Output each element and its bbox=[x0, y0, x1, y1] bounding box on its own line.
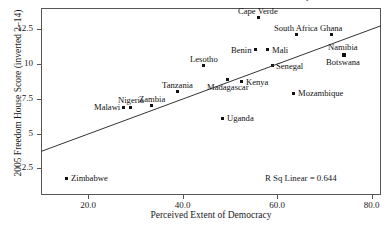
x-tick-mark bbox=[372, 195, 373, 199]
x-tick-label: 80.0 bbox=[352, 200, 388, 210]
y-tick-label: 12.5 bbox=[5, 23, 33, 33]
x-tick-label: 40.0 bbox=[163, 200, 203, 210]
r-squared-annotation: R Sq Linear = 0.644 bbox=[265, 173, 337, 183]
y-tick-label: 7.5 bbox=[5, 93, 33, 103]
x-tick-mark bbox=[277, 195, 278, 199]
y-tick-label: 10 bbox=[5, 58, 33, 68]
y-tick-label: 5 bbox=[5, 128, 33, 138]
x-axis-title: Perceived Extent of Democracy bbox=[41, 210, 381, 220]
y-tick-label: 2.5 bbox=[5, 162, 33, 172]
x-tick-label: 20.0 bbox=[68, 200, 108, 210]
scatter-plot-figure: FIGURE 2. EXTENT OF DEMOCRACY, 2005 2005… bbox=[0, 0, 388, 230]
regression-line bbox=[41, 8, 381, 195]
x-tick-label: 60.0 bbox=[257, 200, 297, 210]
chart-title: FIGURE 2. EXTENT OF DEMOCRACY, 2005 bbox=[95, 0, 345, 2]
x-tick-mark bbox=[183, 195, 184, 199]
x-tick-mark bbox=[88, 195, 89, 199]
